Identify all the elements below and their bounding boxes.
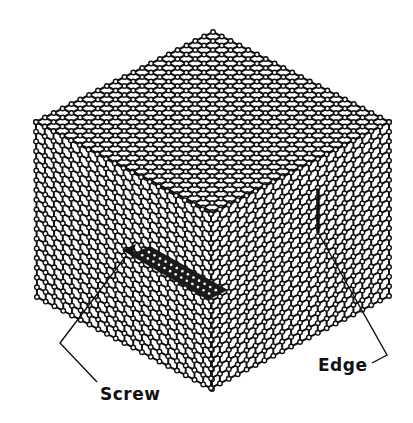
screw-label: Screw bbox=[100, 384, 160, 404]
edge-label: Edge bbox=[318, 355, 367, 375]
